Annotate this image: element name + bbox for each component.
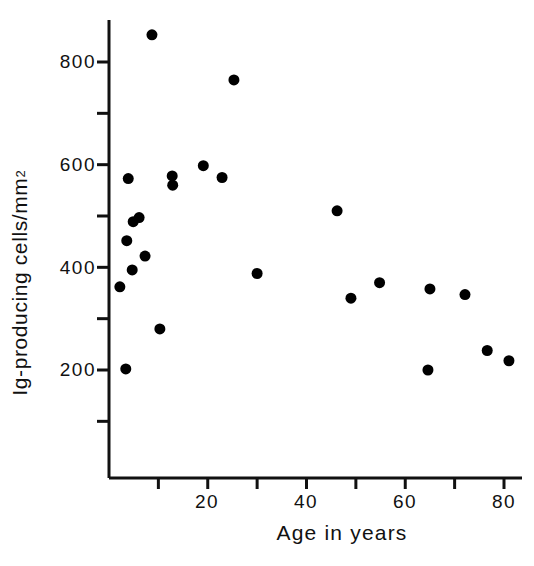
data-point	[345, 293, 356, 304]
data-point	[134, 212, 145, 223]
data-point	[459, 289, 470, 300]
data-point	[374, 277, 385, 288]
data-point	[121, 235, 132, 246]
data-point	[252, 268, 263, 279]
data-point	[198, 160, 209, 171]
data-point	[114, 281, 125, 292]
data-point	[154, 323, 165, 334]
data-points-group	[114, 29, 514, 375]
scatter-chart-figure: Ig-producing cells/mm2 800 600 400 200 2…	[0, 0, 534, 566]
data-point	[146, 29, 157, 40]
data-point	[120, 363, 131, 374]
data-point	[217, 172, 228, 183]
data-point	[140, 251, 151, 262]
plot-area	[0, 0, 534, 566]
data-point	[482, 345, 493, 356]
data-point	[332, 205, 343, 216]
data-point	[422, 365, 433, 376]
data-point	[167, 180, 178, 191]
data-point	[127, 264, 138, 275]
data-point	[503, 355, 514, 366]
data-point	[424, 283, 435, 294]
data-point	[228, 74, 239, 85]
axis-lines	[109, 20, 522, 478]
data-point	[123, 173, 134, 184]
